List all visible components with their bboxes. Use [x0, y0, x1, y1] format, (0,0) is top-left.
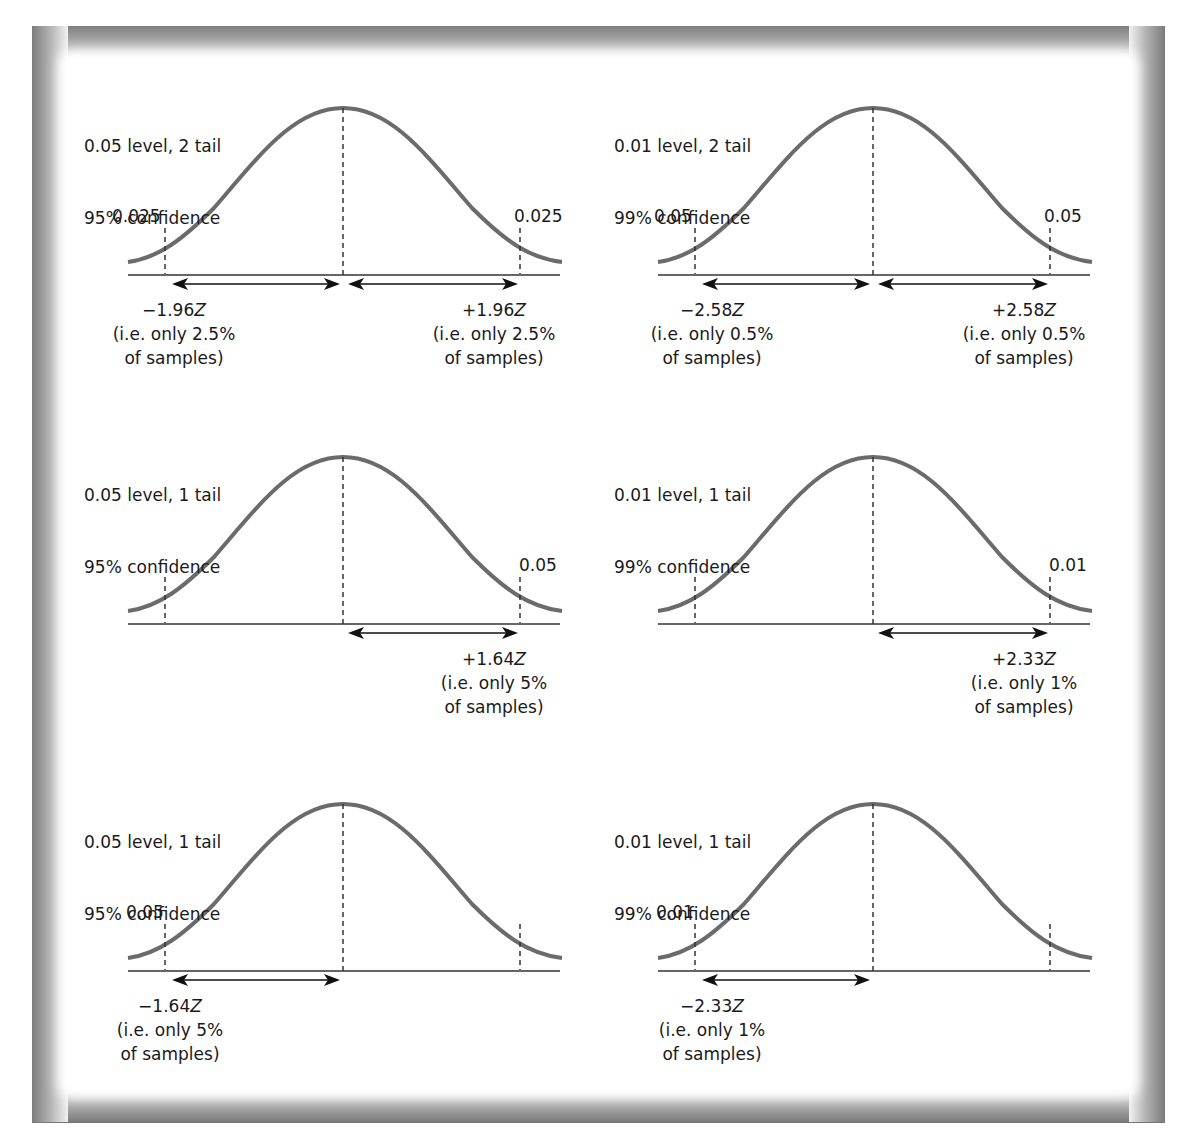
left-tail-area-label: 0.05	[654, 206, 692, 226]
z-value: −2.33	[680, 996, 732, 1016]
panel-005-two-tail: 0.05 level, 2 tail 95% confidence 0.025 …	[84, 86, 584, 406]
significance-level-label: 0.01 level, 1 tail	[614, 830, 751, 854]
panel-001-one-tail-left: 0.01 level, 1 tail 99% confidence 0.01 −…	[614, 782, 1114, 1102]
z-note: of samples)	[622, 346, 802, 370]
significance-level-label: 0.05 level, 1 tail	[84, 483, 221, 507]
confidence-label: 95% confidence	[84, 555, 221, 579]
panel-title: 0.05 level, 1 tail 95% confidence	[84, 782, 221, 974]
panel-title: 0.01 level, 2 tail 99% confidence	[614, 86, 751, 278]
frame-bevel-right	[1129, 26, 1165, 1122]
z-value: +2.33	[992, 649, 1044, 669]
z-value: +1.96	[462, 300, 514, 320]
z-unit: Z	[514, 300, 526, 320]
right-critical-z-label: +1.64Z (i.e. only 5% of samples)	[404, 647, 584, 719]
z-unit: Z	[732, 996, 744, 1016]
panel-005-one-tail-right: 0.05 level, 1 tail 95% confidence 0.05 +…	[84, 435, 584, 755]
z-value: −1.64	[138, 996, 190, 1016]
z-unit: Z	[190, 996, 202, 1016]
z-note: of samples)	[84, 346, 264, 370]
z-unit: Z	[732, 300, 744, 320]
left-critical-z-label: −1.96Z (i.e. only 2.5% of samples)	[84, 298, 264, 370]
significance-level-label: 0.01 level, 2 tail	[614, 134, 751, 158]
confidence-label: 99% confidence	[614, 555, 751, 579]
z-unit: Z	[1044, 649, 1056, 669]
z-value: −1.96	[142, 300, 194, 320]
z-note: of samples)	[934, 346, 1114, 370]
panel-title: 0.01 level, 1 tail 99% confidence	[614, 782, 751, 974]
frame-bevel-top	[32, 26, 1165, 60]
significance-level-label: 0.05 level, 1 tail	[84, 830, 221, 854]
z-note: of samples)	[934, 695, 1114, 719]
right-critical-z-label: +2.58Z (i.e. only 0.5% of samples)	[934, 298, 1114, 370]
frame-bevel-left	[32, 26, 68, 1122]
right-tail-area-label: 0.01	[1049, 555, 1087, 575]
significance-level-label: 0.01 level, 1 tail	[614, 483, 751, 507]
z-unit: Z	[514, 649, 526, 669]
left-critical-z-label: −2.58Z (i.e. only 0.5% of samples)	[622, 298, 802, 370]
right-tail-area-label: 0.05	[519, 555, 557, 575]
left-tail-area-label: 0.05	[126, 902, 164, 922]
panel-001-two-tail: 0.01 level, 2 tail 99% confidence 0.05 0…	[614, 86, 1114, 406]
z-value: −2.58	[680, 300, 732, 320]
z-note: of samples)	[622, 1042, 802, 1066]
z-note: (i.e. only 1%	[622, 1018, 802, 1042]
right-critical-z-label: +2.33Z (i.e. only 1% of samples)	[934, 647, 1114, 719]
z-note: (i.e. only 5%	[80, 1018, 260, 1042]
z-note: of samples)	[404, 695, 584, 719]
z-note: (i.e. only 0.5%	[934, 322, 1114, 346]
z-unit: Z	[1044, 300, 1056, 320]
panel-title: 0.01 level, 1 tail 99% confidence	[614, 435, 751, 627]
z-unit: Z	[194, 300, 206, 320]
panel-title: 0.05 level, 1 tail 95% confidence	[84, 435, 221, 627]
z-value: +1.64	[462, 649, 514, 669]
z-note: (i.e. only 0.5%	[622, 322, 802, 346]
left-critical-z-label: −1.64Z (i.e. only 5% of samples)	[80, 994, 260, 1066]
z-note: of samples)	[404, 346, 584, 370]
z-value: +2.58	[992, 300, 1044, 320]
z-note: (i.e. only 1%	[934, 671, 1114, 695]
z-note: (i.e. only 2.5%	[404, 322, 584, 346]
z-note: (i.e. only 2.5%	[84, 322, 264, 346]
right-tail-area-label: 0.025	[514, 206, 563, 226]
right-tail-area-label: 0.05	[1044, 206, 1082, 226]
z-note: (i.e. only 5%	[404, 671, 584, 695]
z-note: of samples)	[80, 1042, 260, 1066]
left-tail-area-label: 0.025	[112, 206, 161, 226]
panel-title: 0.05 level, 2 tail 95% confidence	[84, 86, 221, 278]
significance-level-label: 0.05 level, 2 tail	[84, 134, 221, 158]
left-critical-z-label: −2.33Z (i.e. only 1% of samples)	[622, 994, 802, 1066]
panel-001-one-tail-right: 0.01 level, 1 tail 99% confidence 0.01 +…	[614, 435, 1114, 755]
right-critical-z-label: +1.96Z (i.e. only 2.5% of samples)	[404, 298, 584, 370]
left-tail-area-label: 0.01	[656, 902, 694, 922]
panel-005-one-tail-left: 0.05 level, 1 tail 95% confidence 0.05 −…	[84, 782, 584, 1102]
